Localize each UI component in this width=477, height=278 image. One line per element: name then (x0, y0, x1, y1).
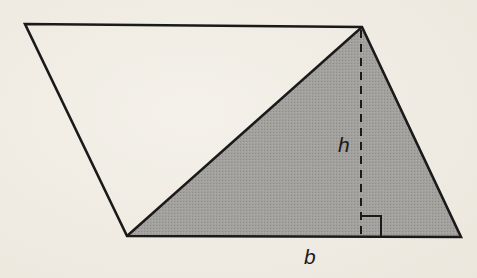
height-label: h (338, 134, 350, 155)
parallelogram-diagram (0, 0, 477, 278)
base-label: b (304, 246, 316, 267)
diagram-canvas: h b (0, 0, 477, 278)
